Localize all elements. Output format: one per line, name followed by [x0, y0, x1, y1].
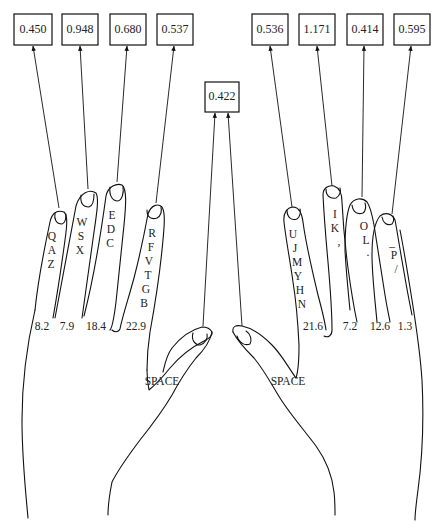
- right-index-nail: [287, 209, 300, 220]
- right-hand-outer-edge: [400, 230, 423, 520]
- key-label: B: [140, 297, 148, 309]
- key-label: K: [331, 222, 340, 234]
- arrow-left-index: [156, 46, 174, 203]
- right-thumb-space-label: SPACE: [271, 375, 306, 387]
- arrow-right-ring: [362, 46, 364, 197]
- key-label: F: [148, 241, 154, 253]
- arrow-right-pinky: [392, 46, 411, 214]
- left-index-outline: [112, 205, 164, 370]
- key-label: O: [360, 220, 368, 232]
- value-box-left-ring: 0.948: [62, 14, 98, 45]
- left-percentages: 8.2 7.9 18.4 22.9: [35, 320, 147, 332]
- key-label: Y: [294, 270, 303, 282]
- key-label: .: [367, 246, 370, 258]
- value-box-right-ring: 0.414: [347, 14, 383, 45]
- key-label: T: [144, 269, 151, 281]
- arrow-right-index: [270, 46, 292, 207]
- key-label: Z: [47, 258, 54, 270]
- key-label: H: [296, 284, 304, 296]
- left-pinky-keys: Q A Z: [47, 230, 56, 270]
- arrow-left-pinky: [33, 46, 59, 208]
- key-label: X: [76, 244, 85, 256]
- left-thumb-base: [108, 332, 212, 515]
- key-label: E: [108, 209, 115, 221]
- key-label: A: [48, 244, 57, 256]
- right-pinky-nail: [382, 216, 394, 225]
- left-middle-nail: [110, 187, 123, 201]
- value-left-middle: 0.680: [115, 22, 142, 36]
- percent-left-middle: 18.4: [86, 320, 106, 332]
- key-label: G: [142, 283, 150, 295]
- value-box-left-index: 0.537: [157, 14, 193, 45]
- left-index-nail: [147, 207, 161, 219]
- value-right-index: 0.536: [257, 22, 284, 36]
- value-left-ring: 0.948: [67, 22, 94, 36]
- key-label: I: [333, 208, 337, 220]
- right-thumb-outline: [233, 326, 296, 378]
- arrow-left-thumb: [203, 113, 215, 326]
- percent-right-middle: 7.2: [343, 320, 358, 332]
- arrow-left-middle: [117, 46, 127, 182]
- key-label: J: [293, 242, 298, 254]
- right-pinky-keys: _ P /: [388, 236, 398, 275]
- percent-left-ring: 7.9: [60, 320, 75, 332]
- key-label: P: [391, 249, 397, 261]
- key-label: /: [394, 263, 398, 275]
- right-thumb-nail: [237, 331, 251, 345]
- key-label: D: [107, 223, 115, 235]
- right-ring-nail: [352, 203, 366, 214]
- value-box-left-pinky: 0.450: [14, 14, 52, 45]
- value-right-ring: 0.414: [352, 22, 379, 36]
- left-hand-outer-edge: [22, 310, 35, 518]
- key-label: Q: [48, 230, 57, 242]
- key-label: V: [145, 255, 154, 267]
- percent-right-index: 21.6: [303, 320, 323, 332]
- right-pinky-outline: [372, 214, 412, 322]
- key-label: N: [298, 298, 307, 310]
- left-pinky-nail: [55, 213, 66, 224]
- key-label: ,: [338, 235, 341, 248]
- right-ring-keys: O L .: [360, 220, 370, 258]
- right-middle-keys: I K ,: [331, 208, 341, 248]
- key-label: U: [289, 228, 298, 240]
- value-thumbs: 0.422: [209, 89, 236, 103]
- value-box-left-middle: 0.680: [110, 14, 146, 45]
- percent-left-pinky: 8.2: [35, 320, 50, 332]
- value-right-pinky: 0.595: [399, 22, 426, 36]
- key-label: R: [148, 227, 156, 239]
- key-label: S: [78, 230, 84, 242]
- key-label: L: [362, 234, 369, 246]
- right-percentages: 21.6 7.2 12.6 1.3: [303, 320, 413, 332]
- arrow-right-middle: [317, 46, 332, 186]
- value-right-middle: 1.171: [304, 22, 331, 36]
- left-ring-nail: [81, 194, 94, 207]
- value-box-right-pinky: 0.595: [394, 14, 430, 45]
- key-label: M: [292, 256, 302, 268]
- right-middle-outline: [323, 186, 357, 337]
- percent-right-pinky: 1.3: [398, 320, 413, 332]
- value-left-index: 0.537: [162, 22, 189, 36]
- value-box-right-middle: 1.171: [299, 14, 335, 45]
- right-ring-outline: [345, 199, 390, 322]
- key-label: W: [77, 216, 88, 228]
- value-left-pinky: 0.450: [20, 22, 47, 36]
- left-thumb-space-label: SPACE: [145, 375, 180, 387]
- value-box-right-index: 0.536: [252, 14, 288, 45]
- percent-right-ring: 12.6: [370, 320, 390, 332]
- finger-load-diagram: 0.450 0.948 0.680 0.537 0.536 1.171 0.41…: [0, 0, 440, 529]
- left-middle-keys: E D C: [106, 209, 115, 249]
- left-ring-keys: W S X: [76, 216, 88, 256]
- arrow-left-ring: [80, 46, 88, 189]
- key-label: _: [388, 236, 395, 248]
- value-box-thumbs: 0.422: [205, 82, 239, 112]
- key-label: C: [106, 237, 114, 249]
- percent-left-index: 22.9: [126, 320, 146, 332]
- arrow-right-thumb: [228, 113, 242, 326]
